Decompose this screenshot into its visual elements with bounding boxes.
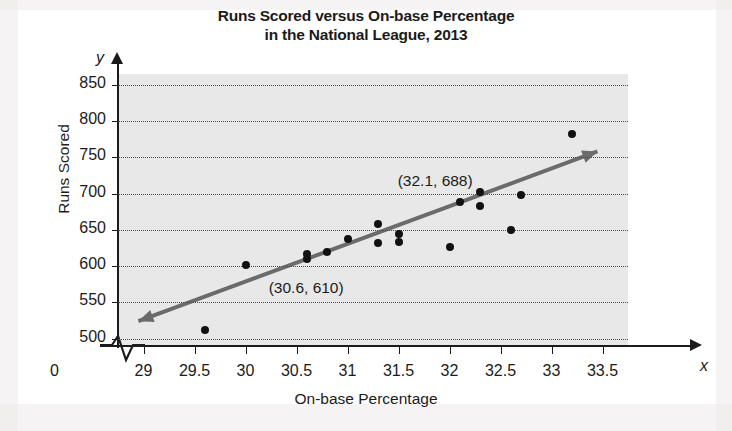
- x-tick: [552, 346, 553, 354]
- gridline-y: [118, 266, 628, 267]
- x-tick: [450, 346, 451, 354]
- y-tick-label: 700: [46, 183, 106, 201]
- y-tick-label: 650: [46, 219, 106, 237]
- data-point: [395, 238, 403, 246]
- y-tick-label: 550: [46, 291, 106, 309]
- y-tick: [112, 194, 118, 195]
- trend-line: [138, 151, 597, 323]
- data-point: [303, 255, 311, 263]
- point-annotation: (32.1, 688): [398, 172, 473, 190]
- y-tick-label: 850: [46, 74, 106, 92]
- y-tick-label: 800: [46, 110, 106, 128]
- chart-figure: Runs Scored versus On-base Percentage in…: [0, 0, 732, 431]
- data-point: [344, 235, 352, 243]
- gridline-y: [118, 339, 628, 340]
- gridline-y: [118, 230, 628, 231]
- y-tick: [112, 157, 118, 158]
- data-point: [517, 191, 525, 199]
- x-tick: [399, 346, 400, 354]
- x-tick: [144, 346, 145, 354]
- y-tick: [112, 85, 118, 86]
- x-tick: [603, 346, 604, 354]
- y-tick: [112, 339, 118, 340]
- data-point: [201, 326, 209, 334]
- y-tick: [112, 302, 118, 303]
- data-point: [507, 226, 515, 234]
- x-tick: [246, 346, 247, 354]
- y-tick: [112, 121, 118, 122]
- gridline-y: [118, 157, 628, 158]
- x-tick: [297, 346, 298, 354]
- data-point: [395, 230, 403, 238]
- point-annotation: (30.6, 610): [269, 279, 344, 297]
- x-tick: [501, 346, 502, 354]
- gridline-y: [118, 85, 628, 86]
- trend-arrow-left: [138, 310, 154, 322]
- y-tick-label: 500: [46, 328, 106, 346]
- y-tick-label: 750: [46, 146, 106, 164]
- x-tick: [348, 346, 349, 354]
- data-point: [476, 188, 484, 196]
- y-tick-label: 600: [46, 255, 106, 273]
- gridline-y: [118, 121, 628, 122]
- gridline-y: [118, 302, 628, 303]
- trend-line-segment: [138, 151, 597, 321]
- x-tick-label: 33.5: [573, 362, 633, 380]
- gridline-y: [118, 194, 628, 195]
- x-tick: [195, 346, 196, 354]
- y-tick: [112, 266, 118, 267]
- y-tick: [112, 230, 118, 231]
- data-point: [446, 243, 454, 251]
